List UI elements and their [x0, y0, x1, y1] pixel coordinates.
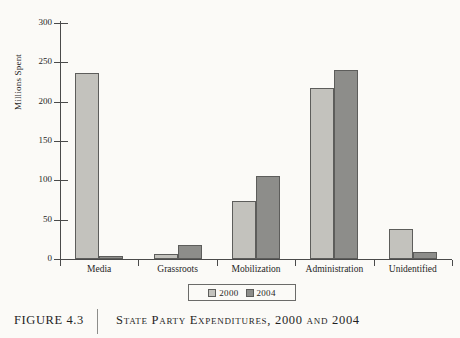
- x-tick-5: [452, 260, 453, 266]
- y-tick-label-300: 300: [24, 17, 52, 27]
- bar-unidentified-2004[interactable]: [413, 252, 437, 259]
- y-axis-label: Millions Spent: [13, 0, 23, 110]
- x-category-label-media: Media: [60, 264, 138, 274]
- chart-legend: 2000 2004: [188, 284, 296, 301]
- legend-item-2000[interactable]: 2000: [208, 288, 238, 298]
- bar-media-2000[interactable]: [75, 73, 99, 259]
- figure-caption: FIGURE 4.3 State Party Expenditures, 200…: [0, 305, 460, 338]
- bar-mobilization-2000[interactable]: [232, 201, 256, 259]
- figure-number: FIGURE 4.3: [14, 313, 84, 328]
- y-tick-label-250: 250: [24, 56, 52, 66]
- legend-swatch-2004-icon: [246, 289, 254, 297]
- legend-label-2000: 2000: [219, 288, 238, 298]
- bar-series-container: [60, 23, 452, 259]
- bar-grassroots-2004[interactable]: [178, 245, 202, 259]
- bar-group: [374, 23, 452, 259]
- bar-group: [295, 23, 373, 259]
- figure-title: State Party Expenditures, 2000 and 2004: [116, 313, 360, 328]
- x-category-label-administration: Administration: [295, 264, 373, 274]
- bar-group: [60, 23, 138, 259]
- legend-label-2004: 2004: [257, 288, 276, 298]
- y-tick-label-150: 150: [24, 135, 52, 145]
- y-tick-label-50: 50: [24, 214, 52, 224]
- y-tick-label-100: 100: [24, 174, 52, 184]
- bar-unidentified-2000[interactable]: [389, 229, 413, 259]
- bar-administration-2004[interactable]: [334, 70, 358, 259]
- bar-grassroots-2000[interactable]: [154, 254, 178, 260]
- chart-plot-area: Millions Spent 050100150200250300 MediaG…: [0, 0, 460, 305]
- x-axis-line: [60, 259, 452, 260]
- y-tick-label-200: 200: [24, 96, 52, 106]
- bar-group: [138, 23, 216, 259]
- y-tick-label-0: 0: [24, 253, 52, 263]
- figure-container: Millions Spent 050100150200250300 MediaG…: [0, 0, 460, 338]
- x-category-label-grassroots: Grassroots: [138, 264, 216, 274]
- legend-swatch-2000-icon: [208, 289, 216, 297]
- caption-divider: [97, 309, 98, 334]
- bar-group: [217, 23, 295, 259]
- bar-mobilization-2004[interactable]: [256, 176, 280, 259]
- y-tick-inner-0: [61, 259, 68, 260]
- bar-media-2004[interactable]: [99, 256, 123, 259]
- legend-item-2004[interactable]: 2004: [246, 288, 276, 298]
- x-category-label-unidentified: Unidentified: [374, 264, 452, 274]
- bar-administration-2000[interactable]: [310, 88, 334, 259]
- x-category-label-mobilization: Mobilization: [217, 264, 295, 274]
